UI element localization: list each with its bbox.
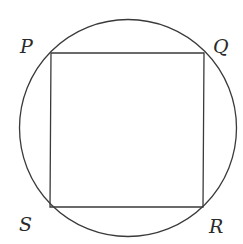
square-pqrs bbox=[50, 53, 204, 207]
vertex-label-s: S bbox=[19, 213, 32, 235]
vertex-label-q: Q bbox=[213, 35, 229, 57]
vertex-label-r: R bbox=[208, 215, 223, 237]
square-inscribed-in-circle-diagram: P Q S R bbox=[0, 0, 243, 244]
vertex-label-p: P bbox=[19, 35, 34, 57]
